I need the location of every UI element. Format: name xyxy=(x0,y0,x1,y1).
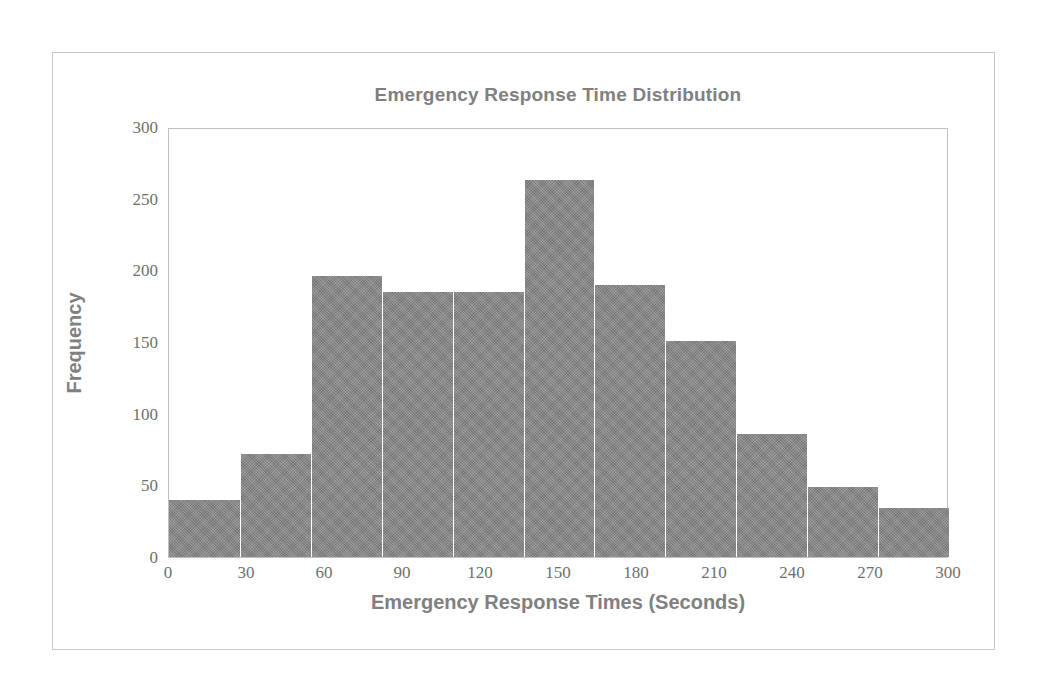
y-axis-tick-label: 150 xyxy=(110,333,158,353)
x-axis-tick-label: 210 xyxy=(701,563,727,583)
x-axis-tick-label: 150 xyxy=(545,563,571,583)
x-axis-tick-label: 90 xyxy=(394,563,411,583)
histogram-bar xyxy=(594,285,665,557)
y-axis-title: Frequency xyxy=(63,292,86,393)
histogram-bar xyxy=(453,292,524,557)
histogram-bar xyxy=(524,180,595,557)
histogram-bar xyxy=(382,292,453,557)
x-axis-tick-label: 60 xyxy=(316,563,333,583)
y-axis-tick-label: 0 xyxy=(110,548,158,568)
y-axis-tick-label: 50 xyxy=(110,476,158,496)
histogram-bar xyxy=(807,487,878,557)
x-axis-tick-label: 0 xyxy=(164,563,173,583)
x-axis-title: Emergency Response Times (Seconds) xyxy=(168,591,948,614)
chart-page: Emergency Response Time Distribution Fre… xyxy=(0,0,1040,686)
histogram-bar xyxy=(240,454,311,557)
y-axis-tick-label: 100 xyxy=(110,405,158,425)
x-axis-tick-label: 120 xyxy=(467,563,493,583)
plot-area xyxy=(168,128,948,558)
x-axis-tick-label: 30 xyxy=(238,563,255,583)
histogram-bar xyxy=(878,508,949,557)
chart-title: Emergency Response Time Distribution xyxy=(168,84,948,106)
bars-layer xyxy=(169,129,947,557)
histogram-bar xyxy=(736,434,807,557)
x-axis-tick-label: 270 xyxy=(857,563,883,583)
histogram-bar xyxy=(311,276,382,557)
histogram-bar xyxy=(665,341,736,557)
y-axis-tick-label: 200 xyxy=(110,261,158,281)
x-axis-tick-label: 300 xyxy=(935,563,961,583)
histogram-bar xyxy=(169,500,240,557)
y-axis-tick-label: 300 xyxy=(110,118,158,138)
x-axis-tick-label: 180 xyxy=(623,563,649,583)
x-axis-tick-label: 240 xyxy=(779,563,805,583)
y-axis-tick-label: 250 xyxy=(110,190,158,210)
